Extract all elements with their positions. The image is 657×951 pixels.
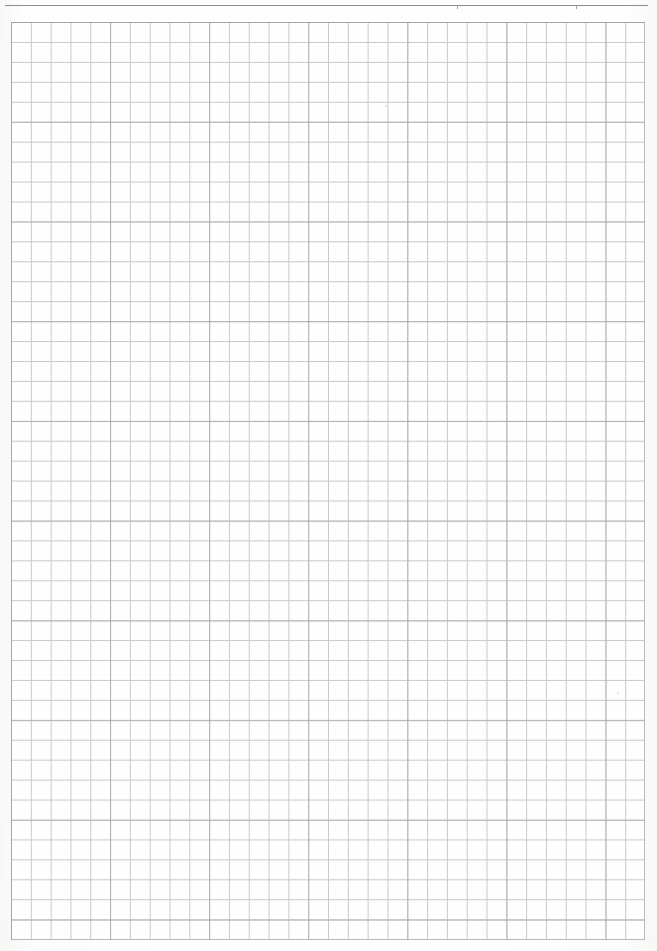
header-rule <box>5 5 648 6</box>
grid-accent-lines <box>11 22 645 940</box>
header-rule-tick-left <box>457 6 458 9</box>
scanned-page <box>0 0 657 951</box>
graph-paper-grid <box>11 22 645 940</box>
page-header <box>0 0 657 16</box>
header-rule-tick-right <box>576 6 577 9</box>
grid-scan-banding <box>11 22 645 940</box>
